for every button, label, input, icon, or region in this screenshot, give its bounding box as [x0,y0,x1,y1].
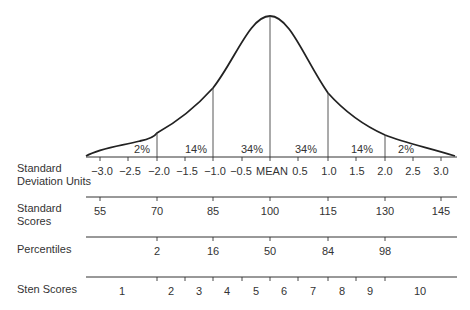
sten-score-label: 3 [196,285,202,297]
row-label-percentiles: Percentiles [17,243,71,256]
sd-tick-label: 2.5 [405,165,420,177]
standard-scores-ticks [100,197,441,201]
sd-tick-label: 1.0 [321,165,336,177]
sd-tick-label: 0.5 [292,165,307,177]
area-label-minus2-minus1: 14% [185,143,207,155]
sd-tick-label: −2.0 [148,165,170,177]
percentile-label: 50 [264,245,276,257]
sd-tick-label: −2.5 [119,165,141,177]
standard-score-label: 55 [94,205,106,217]
standard-score-label: 100 [261,205,279,217]
normal-distribution-diagram [0,0,470,310]
sten-score-label: 5 [253,285,259,297]
sten-score-label: 6 [281,285,287,297]
area-label-plus2-plus3: 2% [398,143,414,155]
sten-score-label: 4 [224,285,230,297]
percentile-label: 84 [322,245,334,257]
row-label-standard-scores-line2: Scores [17,215,62,228]
sd-tick-label: −0.5 [230,165,252,177]
area-label-minus1-mean: 34% [241,143,263,155]
sd-tick-label: 2.0 [377,165,392,177]
sten-score-label: 8 [339,285,345,297]
sten-score-label: 9 [367,285,373,297]
sd-tick-label: −1.5 [176,165,198,177]
percentile-label: 16 [207,245,219,257]
standard-score-label: 85 [207,205,219,217]
standard-score-label: 70 [151,205,163,217]
row-label-sd-units: Standard Deviation Units [17,162,91,188]
sd-tick-label: 3.0 [433,165,448,177]
area-label-plus1-plus2: 14% [351,143,373,155]
area-label-mean-plus1: 34% [295,143,317,155]
standard-score-label: 145 [432,205,450,217]
standard-score-label: 130 [376,205,394,217]
sten-scores-ticks [157,277,385,281]
sten-score-label: 10 [414,285,426,297]
row-label-sd-units-line2: Deviation Units [17,175,91,188]
percentile-label: 98 [379,245,391,257]
sten-score-label: 7 [310,285,316,297]
sd-tick-label: −3.0 [91,165,113,177]
sd-tick-label-mean: MEAN [256,165,288,177]
area-label-minus3-minus2: 2% [134,143,150,155]
row-label-sten-scores: Sten Scores [17,283,77,296]
bell-curve [86,16,455,156]
percentiles-ticks [157,237,385,241]
sten-score-label: 1 [119,285,125,297]
sten-score-label: 2 [168,285,174,297]
percentile-label: 2 [154,245,160,257]
row-label-standard-scores-line1: Standard [17,202,62,215]
row-label-standard-scores: Standard Scores [17,202,62,228]
sd-tick-label: −1.0 [204,165,226,177]
standard-score-label: 115 [319,205,337,217]
row-label-sd-units-line1: Standard [17,162,91,175]
sd-tick-label: 1.5 [349,165,364,177]
sd-axis-ticks [100,157,441,161]
